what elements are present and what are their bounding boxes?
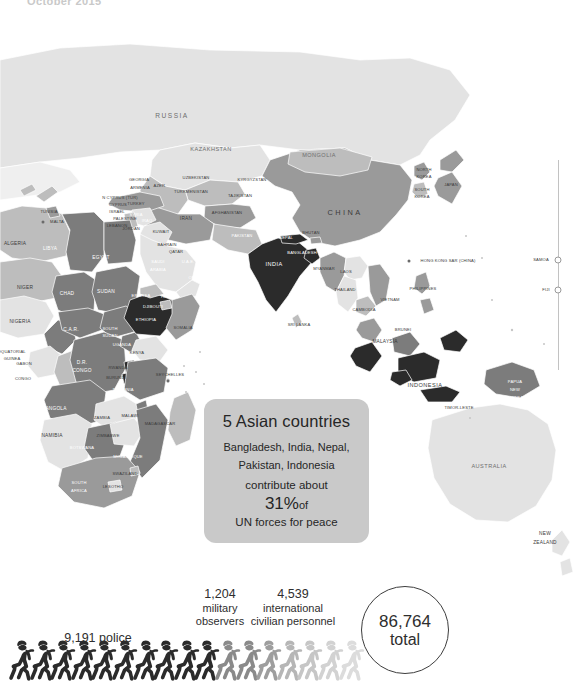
callout-footer: UN forces for peace: [214, 516, 359, 528]
figure-row: [0, 639, 573, 685]
stat-civilians-label-2: civilian personnel: [251, 615, 335, 628]
callout-percent: 31%of: [214, 493, 359, 514]
stat-observers-label-2: observers: [196, 615, 244, 628]
callout-percent-value: 31%: [265, 494, 299, 513]
malta-marker: [42, 221, 45, 224]
infographic-page: October 2015 .c-lt{fill:#e3e3e3;} .c-md{…: [0, 0, 573, 685]
pacific-locator-line: [558, 160, 559, 370]
samoa-marker: [555, 257, 562, 264]
fiji-marker: [555, 287, 562, 294]
stat-observers-value: 1,204: [196, 587, 244, 602]
stat-civilians-value: 4,539: [251, 587, 335, 602]
walking-soldier-icon: [336, 639, 366, 685]
stat-civilian-personnel: 4,539 international civilian personnel: [251, 587, 335, 628]
total-value: 86,764: [379, 612, 431, 631]
total-badge: 86,764 total: [361, 586, 449, 674]
total-label: total: [390, 631, 420, 649]
header-date: October 2015: [27, 0, 102, 7]
callout-country-list: Bangladesh, India, Nepal, Pakistan, Indo…: [214, 438, 359, 474]
callout-percent-suffix: of: [299, 499, 308, 511]
stat-civilians-label-1: international: [251, 602, 335, 615]
seychelles-marker: [167, 380, 170, 383]
stat-military-observers: 1,204 military observers: [196, 587, 244, 628]
callout-contribute-text: contribute about: [214, 479, 359, 491]
stat-observers-label-1: military: [196, 602, 244, 615]
hongkong-marker: [408, 260, 411, 263]
callout-card: 5 Asian countries Bangladesh, India, Nep…: [204, 399, 369, 543]
callout-countries-line1: Bangladesh, India, Nepal,: [214, 438, 359, 456]
callout-headline: 5 Asian countries: [214, 412, 359, 431]
callout-countries-line2: Pakistan, Indonesia: [214, 456, 359, 474]
